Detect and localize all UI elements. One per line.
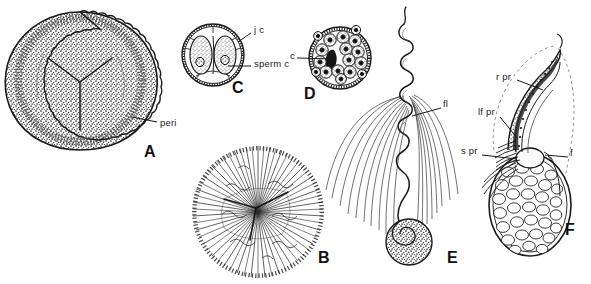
posterior-vesicle: [386, 219, 432, 265]
panel-letter-b: B: [318, 250, 330, 266]
label-f: f: [570, 148, 573, 158]
label-sperm-c: sperm c: [254, 59, 289, 69]
panel-letter-e: E: [447, 250, 458, 266]
label-s-pr: s pr: [461, 146, 478, 156]
leader-jc: [238, 33, 251, 42]
panel-a-drawing: [5, 11, 162, 150]
label-peri: peri: [160, 118, 177, 128]
panel-d-drawing: [297, 25, 371, 89]
label-fl: fl: [443, 99, 448, 109]
panel-letter-a: A: [144, 144, 156, 160]
panel-letter-f: F: [565, 222, 575, 238]
panel-letter-c: C: [232, 80, 244, 96]
panel-c-drawing: [182, 24, 251, 86]
label-r-pr: r pr: [496, 72, 511, 82]
flagella-tuft: [326, 95, 458, 238]
label-lf-pr: lf pr: [478, 107, 495, 117]
panel-b-drawing: [192, 146, 324, 278]
panel-f-drawing: [482, 34, 574, 256]
plate-drawing: [0, 0, 591, 284]
figure-plate: peri j c sperm c c fl r pr lf pr s pr f …: [0, 0, 591, 284]
panel-letter-d: D: [304, 86, 316, 102]
sperm-cell-left: [190, 36, 212, 74]
coiled-spermatozoid-body: [396, 24, 413, 222]
label-c: c: [290, 51, 295, 61]
label-jc: j c: [254, 25, 264, 35]
